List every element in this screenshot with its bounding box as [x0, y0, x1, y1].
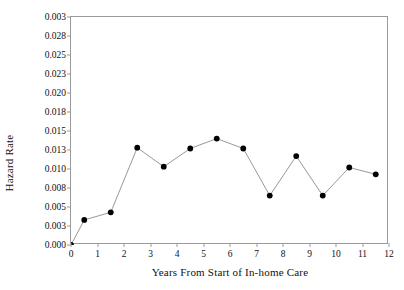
y-tick-mark: [67, 36, 71, 37]
y-tick-mark: [67, 169, 71, 170]
x-tick-label: 10: [331, 249, 341, 259]
x-tick-mark: [283, 243, 284, 247]
y-tick-mark: [67, 207, 71, 208]
y-tick-label: 0.005: [45, 202, 66, 212]
x-tick-mark: [71, 243, 72, 247]
y-tick-mark: [67, 74, 71, 75]
plot-area: 0.0000.0030.0050.0080.0100.0130.0150.018…: [70, 16, 388, 244]
hazard-rate-markers: [71, 136, 379, 245]
data-point: [81, 217, 87, 223]
x-tick-mark: [177, 243, 178, 247]
x-tick-label: 3: [148, 249, 153, 259]
data-point: [240, 146, 246, 152]
data-point: [267, 193, 273, 199]
y-tick-mark: [67, 131, 71, 132]
x-tick-label: 5: [201, 249, 206, 259]
x-tick-mark: [124, 243, 125, 247]
x-tick-mark: [336, 243, 337, 247]
y-tick-label: 0.018: [45, 107, 66, 117]
x-tick-label: 2: [122, 249, 127, 259]
x-tick-mark: [203, 243, 204, 247]
data-point: [161, 164, 167, 170]
x-tick-mark: [362, 243, 363, 247]
x-tick-mark: [97, 243, 98, 247]
y-tick-label: 0.015: [45, 126, 66, 136]
data-point: [214, 136, 220, 142]
data-point: [320, 193, 326, 199]
x-tick-label: 9: [307, 249, 312, 259]
x-tick-mark: [230, 243, 231, 247]
x-tick-label: 1: [95, 249, 100, 259]
y-tick-mark: [67, 93, 71, 94]
y-tick-label: 0.000: [45, 240, 66, 250]
x-tick-mark: [256, 243, 257, 247]
y-axis-title: Hazard Rate: [0, 18, 18, 290]
y-tick-label: 0.013: [45, 145, 66, 155]
data-point: [134, 145, 140, 151]
x-tick-mark: [150, 243, 151, 247]
x-tick-label: 6: [228, 249, 233, 259]
hazard-rate-chart: Hazard Rate 0.0000.0030.0050.0080.0100.0…: [0, 0, 404, 290]
hazard-rate-line: [71, 139, 376, 245]
y-tick-label: 0.003: [45, 12, 66, 22]
y-tick-label: 0.025: [45, 50, 66, 60]
y-tick-mark: [67, 226, 71, 227]
y-tick-label: 0.003: [45, 221, 66, 231]
y-tick-label: 0.010: [45, 164, 66, 174]
x-axis-title: Years From Start of In-home Care: [70, 266, 390, 278]
y-tick-label: 0.008: [45, 183, 66, 193]
x-tick-label: 4: [175, 249, 180, 259]
y-tick-mark: [67, 112, 71, 113]
y-tick-label: 0.028: [45, 31, 66, 41]
x-tick-label: 8: [281, 249, 286, 259]
x-tick-label: 12: [384, 249, 394, 259]
x-tick-mark: [389, 243, 390, 247]
data-point: [346, 165, 352, 171]
data-point: [373, 171, 379, 177]
y-tick-mark: [67, 55, 71, 56]
x-tick-mark: [309, 243, 310, 247]
data-point: [187, 146, 193, 152]
x-tick-label: 0: [69, 249, 74, 259]
data-point: [293, 153, 299, 159]
y-tick-label: 0.023: [45, 69, 66, 79]
x-tick-label: 7: [254, 249, 259, 259]
y-tick-mark: [67, 188, 71, 189]
y-tick-mark: [67, 17, 71, 18]
y-tick-mark: [67, 150, 71, 151]
y-tick-label: 0.020: [45, 88, 66, 98]
data-point: [108, 209, 114, 215]
data-series-layer: [71, 17, 389, 245]
x-tick-label: 11: [358, 249, 367, 259]
